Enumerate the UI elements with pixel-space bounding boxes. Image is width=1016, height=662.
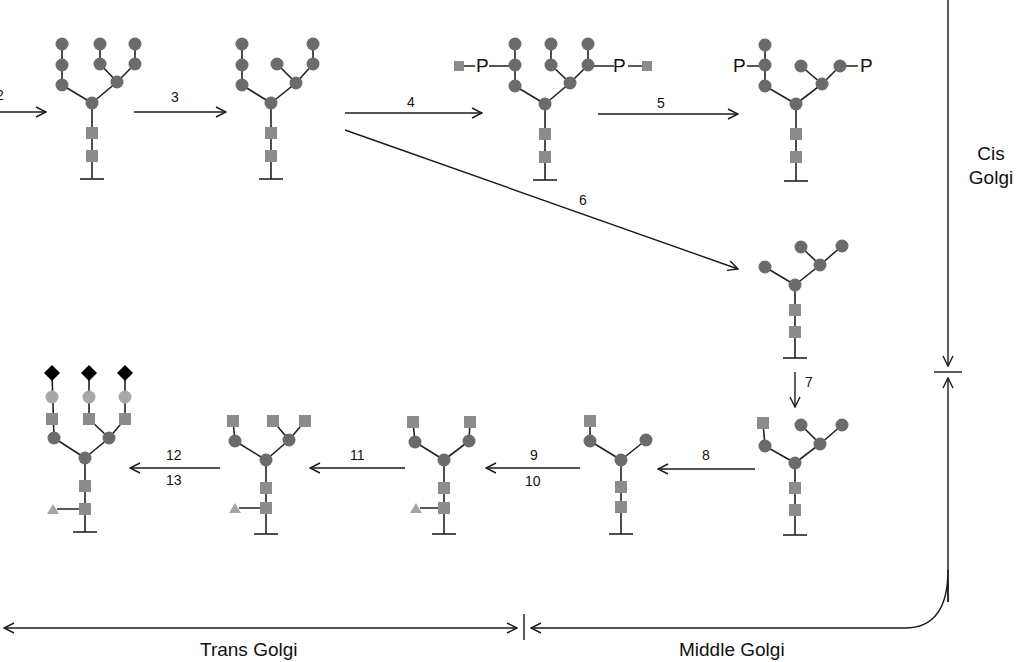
step-label-11: 11	[350, 447, 365, 463]
cis-golgi-label-line2: Golgi	[966, 166, 1016, 190]
phosphate-label: P	[613, 55, 626, 77]
phosphate-label: P	[476, 55, 489, 77]
step-label-13: 13	[166, 472, 182, 488]
mannose-circle-icon	[584, 434, 653, 467]
arrow-step-6	[345, 130, 738, 269]
oligosaccharide-structure-i	[227, 415, 311, 534]
step-label-10: 10	[525, 473, 541, 489]
cis-golgi-label-line1: Cis	[966, 142, 1016, 166]
mannose-circle-icon	[229, 434, 296, 467]
oligosaccharide-structure-a	[56, 38, 142, 180]
cis-golgi-bracket	[934, 0, 962, 372]
step-label-9: 9	[530, 447, 538, 463]
cis-golgi-label: Cis Golgi	[966, 142, 1016, 190]
step-label-4: 4	[407, 94, 415, 110]
step-label-8: 8	[702, 447, 710, 463]
mannose-circle-icon	[56, 38, 142, 110]
step-label-3: 3	[171, 89, 179, 105]
trans-golgi-label: Trans Golgi	[200, 638, 298, 662]
phosphate-label: P	[860, 55, 873, 77]
mannose-circle-icon	[759, 240, 849, 292]
phosphate-label: P	[733, 55, 746, 77]
oligosaccharide-structure-g	[584, 415, 653, 534]
mannose-circle-icon	[759, 419, 849, 470]
step-label-2: 2	[0, 87, 4, 103]
oligosaccharide-structure-j	[44, 365, 133, 532]
step-label-6: 6	[579, 192, 587, 208]
oligosaccharide-structure-h	[407, 416, 476, 534]
step-label-5: 5	[657, 95, 665, 111]
oligosaccharide-structure-e	[759, 240, 849, 359]
oligosaccharide-structure-d	[747, 39, 858, 182]
oligosaccharide-structure-b	[236, 38, 320, 180]
galactose-circle-icon	[46, 391, 132, 404]
middle-golgi-label: Middle Golgi	[679, 638, 785, 662]
sialic-acid-diamond-icon	[44, 365, 133, 381]
mannose-circle-icon	[409, 435, 476, 467]
oligosaccharide-structure-f	[757, 417, 849, 535]
step-label-7: 7	[805, 374, 813, 390]
step-label-12: 12	[166, 447, 182, 463]
mannose-circle-icon	[48, 432, 116, 465]
glcnac-square-icon	[46, 413, 131, 515]
